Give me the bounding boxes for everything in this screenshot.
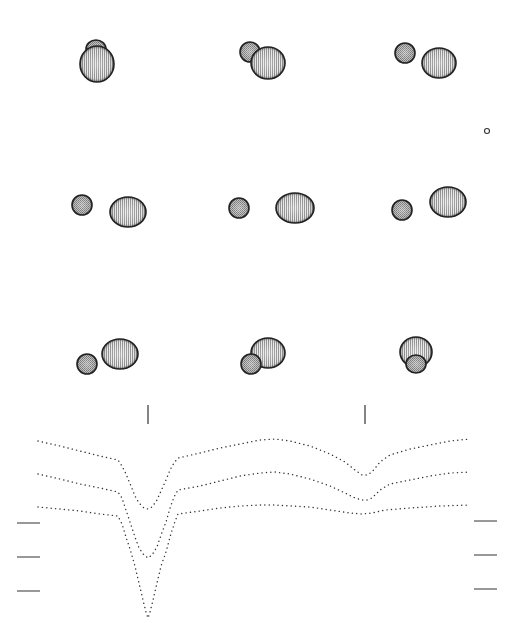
binary-panel-2 (395, 43, 456, 78)
binary-panel-8 (400, 337, 432, 373)
binary-panel-0 (80, 40, 114, 82)
binary-star-panels (72, 40, 466, 374)
secondary-star (392, 200, 412, 220)
scale-bars (17, 521, 497, 591)
light-curves (38, 439, 470, 618)
secondary-star (229, 198, 249, 218)
eclipse-phase-ticks (148, 405, 365, 424)
primary-star (422, 48, 456, 78)
marker-circle (485, 129, 490, 134)
secondary-star (241, 354, 261, 374)
light-curve-curve-2 (38, 472, 470, 558)
primary-star (102, 339, 138, 369)
small-circle-marker (485, 129, 490, 134)
binary-panel-3 (72, 195, 146, 227)
figure-canvas (0, 0, 517, 633)
primary-star (110, 197, 146, 227)
primary-star (430, 187, 466, 217)
primary-star (276, 193, 314, 223)
binary-panel-6 (77, 339, 138, 374)
secondary-star (395, 43, 415, 63)
secondary-star (406, 355, 426, 373)
primary-star (251, 47, 285, 79)
binary-panel-7 (241, 338, 285, 374)
primary-star (80, 46, 114, 82)
light-curve-curve-3 (38, 505, 470, 618)
binary-panel-4 (229, 193, 314, 223)
secondary-star (77, 354, 97, 374)
secondary-star (72, 195, 92, 215)
binary-panel-5 (392, 187, 466, 220)
binary-panel-1 (240, 42, 285, 79)
